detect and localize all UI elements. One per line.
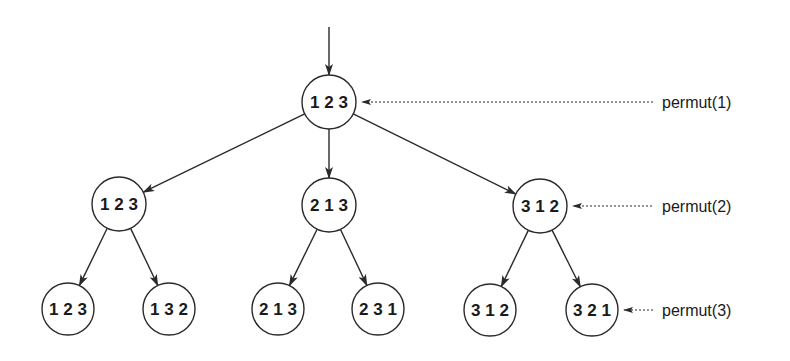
tree-node-l3e: 3 1 2 [464,284,516,336]
tree-node-l2c: 3 1 2 [513,179,567,233]
node-label: 2 1 3 [259,300,297,319]
node-label: 1 2 3 [49,300,87,319]
tree-node-l2a: 1 2 3 [92,177,146,231]
node-label: 2 3 1 [359,300,397,319]
node-label: 1 2 3 [100,195,138,214]
edge-arrow [143,114,304,192]
node-label: 3 2 1 [573,301,611,320]
level-label-text: permut(1) [662,94,731,111]
tree-node-l2b: 2 1 3 [302,178,356,232]
node-label: 3 1 2 [521,197,559,216]
tree-node-l3f: 3 2 1 [566,284,618,336]
level-label-text: permut(2) [662,198,731,215]
level-label-text: permut(3) [662,302,731,319]
level-label-2: permut(2) [573,198,731,215]
permutation-recursion-tree: 1 2 31 2 32 1 33 1 21 2 31 3 22 1 32 3 1… [0,0,790,361]
level-label-1: permut(1) [362,94,731,111]
tree-node-l3c: 2 1 3 [252,283,304,335]
edge-arrow [289,229,317,285]
tree-node-l3a: 1 2 3 [42,283,94,335]
edge-arrow [79,228,107,285]
edge-arrow [341,229,367,285]
node-label: 2 1 3 [310,196,348,215]
node-label: 3 1 2 [471,301,509,320]
edge-arrow [552,230,580,287]
tree-node-l3b: 1 3 2 [143,283,195,335]
edge-arrow [353,114,516,194]
node-label: 1 3 2 [150,300,188,319]
edge-arrow [131,228,158,285]
tree-node-root: 1 2 3 [302,75,356,129]
tree-node-l3d: 2 3 1 [352,283,404,335]
node-label: 1 2 3 [310,93,348,112]
edge-arrow [501,230,528,286]
nodes: 1 2 31 2 32 1 33 1 21 2 31 3 22 1 32 3 1… [42,75,618,336]
level-label-3: permut(3) [624,302,731,319]
